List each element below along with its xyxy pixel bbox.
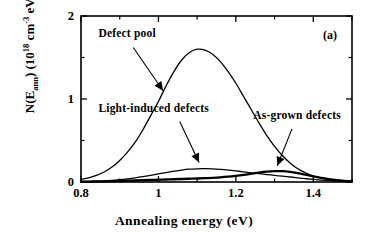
figure-panel-a: 012 0.811.21.4 N(Eann) (1018 cm-3 eV-1) …: [0, 0, 368, 232]
axis-ticks: [81, 16, 352, 182]
y-tick-label: 1: [52, 92, 74, 107]
y-axis-title-text: N(Eann) (1018 cm-3 eV-1): [21, 0, 40, 113]
x-tick-label: 0.8: [73, 186, 89, 201]
label-defect-pool: Defect pool: [98, 27, 155, 39]
y-tick-label: 2: [52, 9, 74, 24]
axes-frame: [81, 16, 352, 182]
x-tick-label: 1.4: [305, 186, 321, 201]
x-tick-label: 1.2: [228, 186, 244, 201]
y-axis-title: N(Eann) (1018 cm-3 eV-1): [18, 0, 42, 140]
label-light-induced-defects: Light-induced defects: [98, 102, 209, 114]
y-tick-label: 0: [52, 175, 74, 190]
panel-label: (a): [323, 28, 337, 43]
x-axis-title: Annealing energy (eV): [0, 213, 368, 229]
label-as-grown-defects: As-grown defects: [253, 109, 341, 121]
x-tick-label: 1: [155, 186, 161, 201]
